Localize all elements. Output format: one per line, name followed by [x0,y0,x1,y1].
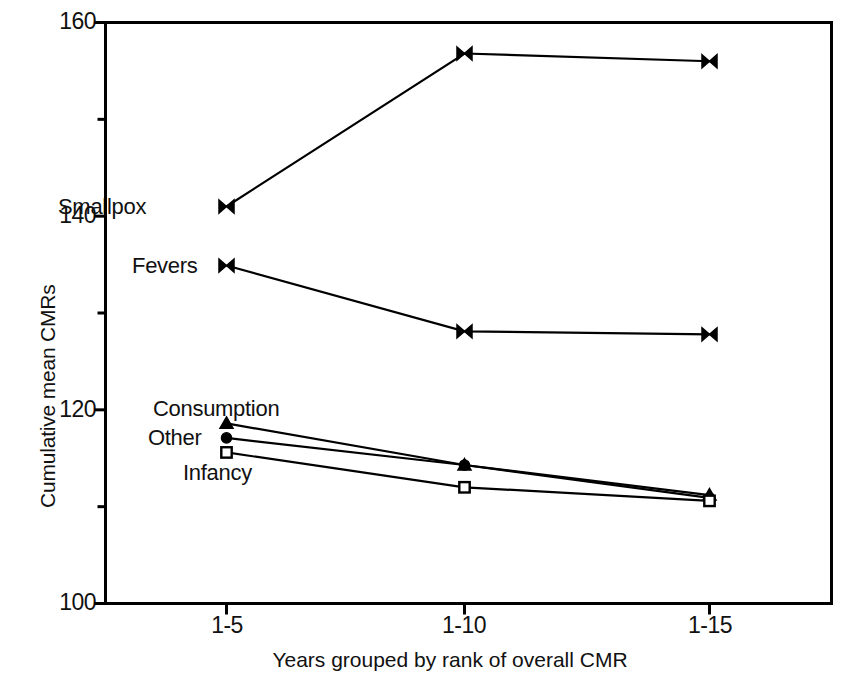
marker-bowtie [219,200,234,213]
series-line-fevers [227,266,710,335]
chart-figure: Cumulative mean CMRs 160 140 120 100 1-5… [0,0,846,687]
marker-open-square [704,496,714,506]
plot-area [0,0,846,687]
marker-bowtie [702,55,717,68]
marker-bowtie [219,259,234,272]
axis-ticks [95,23,710,615]
marker-filled-circle [459,460,469,470]
series-lines [227,53,710,500]
marker-open-square [459,482,469,492]
marker-triangle [220,417,233,428]
series-markers [219,47,717,506]
marker-open-square [221,447,231,457]
marker-bowtie [457,325,472,338]
marker-bowtie [457,47,472,60]
series-line-smallpox [227,53,710,206]
marker-filled-circle [221,433,231,443]
plot-frame [106,23,832,604]
marker-bowtie [702,328,717,341]
